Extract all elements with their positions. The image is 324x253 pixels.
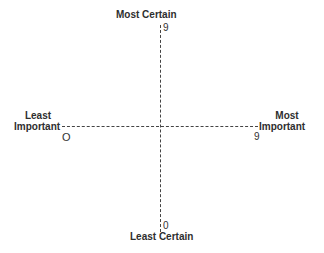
importance-max-value: 9 [254, 132, 260, 142]
least-important-label-line2: Important [14, 121, 60, 132]
certainty-min-value: 0 [163, 221, 169, 231]
least-certain-label: Least Certain [130, 231, 193, 242]
importance-min-value: O [62, 132, 71, 142]
importance-axis [62, 126, 258, 127]
most-certain-label: Most Certain [116, 9, 177, 20]
most-important-label-line1: Most [262, 110, 312, 121]
least-important-label-line1: Least [12, 110, 64, 121]
most-important-label-line2: Important [259, 121, 305, 132]
certainty-max-value: 9 [163, 23, 169, 33]
certainty-axis [160, 25, 161, 232]
